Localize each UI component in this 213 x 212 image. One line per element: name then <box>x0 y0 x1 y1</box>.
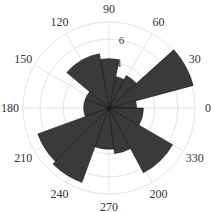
angle-tick-label: 210 <box>14 151 32 165</box>
radial-tick-label: 6 <box>119 34 125 46</box>
angle-tick-label: 30 <box>189 52 201 66</box>
radial-tick-label: 4 <box>116 57 122 69</box>
angle-tick-label: 270 <box>100 200 118 212</box>
angle-tick-label: 120 <box>51 15 69 29</box>
polar-histogram-chart: 246 0306090120150180210240270200330 <box>0 0 213 212</box>
angle-tick-label: 0 <box>205 101 211 115</box>
angle-tick-label: 240 <box>51 187 69 201</box>
angle-tick-label: 200 <box>150 187 168 201</box>
angle-tick-label: 330 <box>186 151 204 165</box>
angle-tick-label: 150 <box>14 52 32 66</box>
angle-tick-label: 180 <box>1 101 19 115</box>
angle-tick-label: 60 <box>153 15 165 29</box>
angle-tick-label: 90 <box>103 2 115 16</box>
radial-tick-label: 2 <box>112 79 118 91</box>
histogram-wedges <box>38 50 193 183</box>
